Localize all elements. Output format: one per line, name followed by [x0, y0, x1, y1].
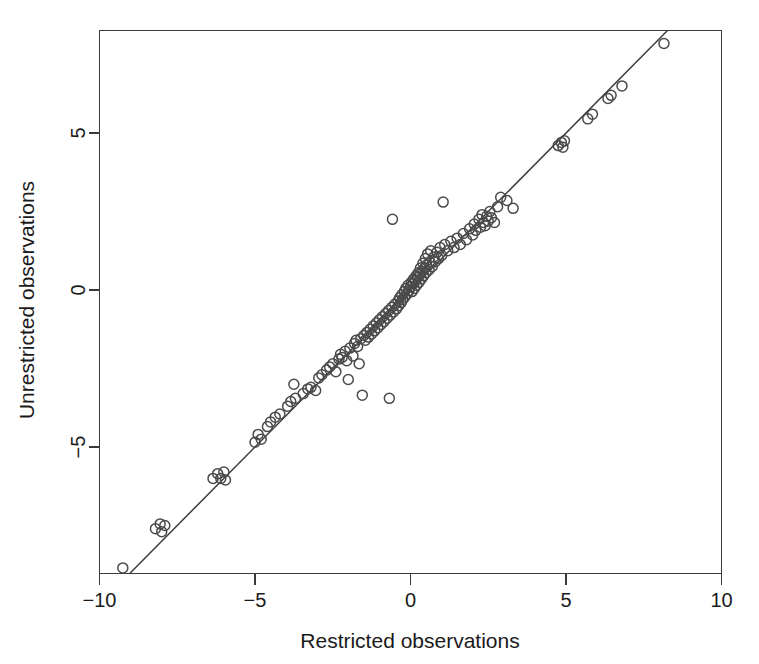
x-tick-label: 10 [710, 589, 732, 611]
x-tick-label: −10 [83, 589, 117, 611]
scatter-point [493, 202, 503, 212]
scatter-point [438, 197, 448, 207]
x-axis: −10−50510 [83, 574, 733, 611]
y-axis: −505 [67, 127, 100, 458]
data-points-layer [118, 39, 669, 573]
scatter-point [449, 243, 459, 253]
y-tick-label: 0 [67, 284, 89, 295]
scatter-point [387, 214, 397, 224]
scatter-plot-figure: −10−50510 −505 Restricted observations U… [0, 0, 759, 664]
plot-canvas: −10−50510 −505 Restricted observations U… [0, 0, 759, 664]
scatter-point [617, 81, 627, 91]
scatter-point [384, 393, 394, 403]
scatter-point [508, 203, 518, 213]
scatter-point [659, 39, 669, 49]
y-axis-title: Unrestricted observations [15, 181, 38, 419]
y-tick-label: 5 [67, 127, 89, 138]
scatter-point [496, 192, 506, 202]
x-tick-label: −5 [244, 589, 267, 611]
scatter-point [446, 236, 456, 246]
scatter-point [289, 379, 299, 389]
plot-frame-box [100, 31, 722, 574]
scatter-point [354, 359, 364, 369]
x-tick-label: 5 [560, 589, 571, 611]
x-tick-label: 0 [405, 589, 416, 611]
x-axis-title: Restricted observations [300, 629, 519, 652]
scatter-point [357, 390, 367, 400]
scatter-point [118, 563, 128, 573]
y-tick-label: −5 [67, 436, 89, 459]
scatter-point [343, 374, 353, 384]
